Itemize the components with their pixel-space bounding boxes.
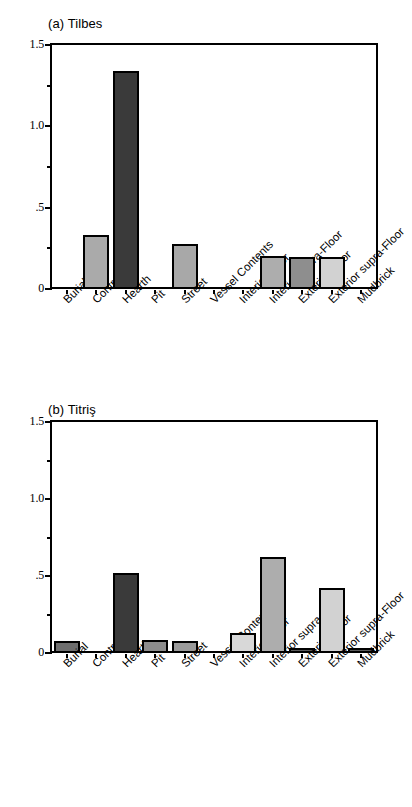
y-axis-tick-major [45,575,52,577]
bar-hearth [113,71,139,289]
y-axis-tick-label: 0 [4,281,44,296]
x-axis-label: Pit [149,288,167,306]
y-axis-tick-major [45,44,52,46]
y-axis-tick-label: 1.0 [4,118,44,133]
y-axis-tick-label: 1.5 [4,37,44,52]
y-axis-tick-minor [47,460,52,462]
panel-title-b: (b) Titriş [48,402,96,417]
y-axis-tick-label: .5 [4,568,44,583]
y-axis-tick-minor [47,85,52,87]
y-axis-tick-minor [47,166,52,168]
y-axis-tick-major [45,288,52,290]
y-axis-tick-minor [47,247,52,249]
bar-pit [142,640,168,653]
y-axis-tick-label: 1.5 [4,414,44,429]
y-axis-tick-major [45,652,52,654]
y-axis-tick-label: .5 [4,200,44,215]
figure-bar-charts: (a) Tilbes 0.51.01.5BurialControlHearthP… [0,0,412,807]
y-axis-tick-major [45,207,52,209]
y-axis-tick-major [45,421,52,423]
y-axis-tick-label: 1.0 [4,491,44,506]
y-axis-tick-major [45,125,52,127]
bar-hearth [113,573,139,653]
y-axis-tick-major [45,498,52,500]
y-axis-tick-minor [47,614,52,616]
y-axis-tick-minor [47,537,52,539]
bar-exterior-supra-floor [319,588,345,653]
bar-interior-supra-floor [260,557,286,653]
x-axis-label: Pit [149,652,167,670]
panel-title-a: (a) Tilbes [48,16,102,31]
y-axis-tick-label: 0 [4,645,44,660]
chart-panel-titris: (b) Titriş 0.51.01.5BurialControlHearthP… [0,398,412,807]
chart-panel-tilbes: (a) Tilbes 0.51.01.5BurialControlHearthP… [0,0,412,400]
